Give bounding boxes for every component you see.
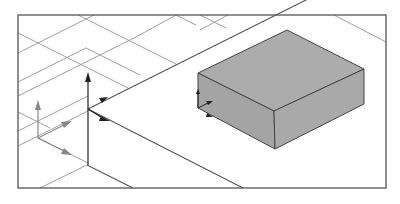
isometric-diagram — [0, 0, 400, 204]
arrow-right-up-icon — [61, 121, 72, 128]
coordinate-frame-grey — [35, 100, 72, 155]
solid-box — [198, 30, 364, 149]
arrow-up-icon — [35, 100, 41, 110]
arrow-right-down-icon — [61, 148, 72, 155]
arrow-up-icon — [85, 72, 91, 82]
